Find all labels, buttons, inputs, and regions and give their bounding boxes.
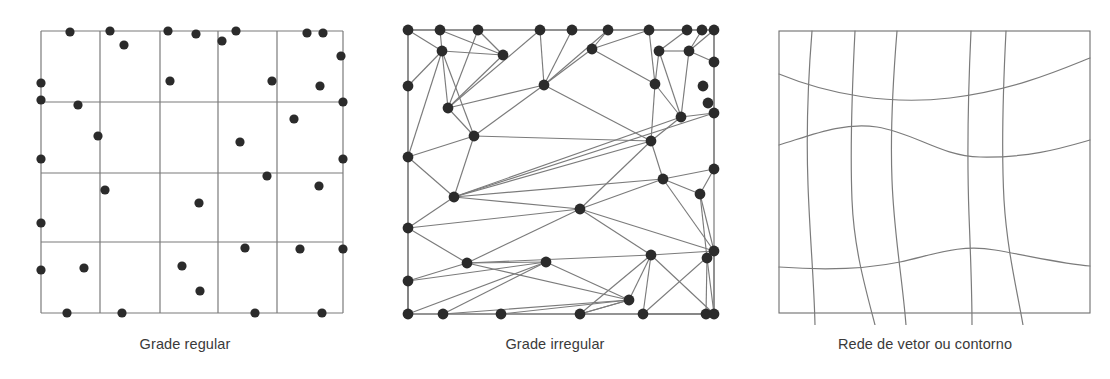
grade-irregular-diagram (370, 0, 740, 325)
grid-point (318, 28, 327, 37)
triangulation-edge (700, 194, 707, 258)
triangulation-edge (659, 51, 681, 117)
grid-point (79, 263, 88, 272)
triangulation-edge (580, 255, 651, 314)
irregular-grid-edges (408, 30, 714, 314)
grid-point (315, 81, 324, 90)
panel-grade-regular: Grade regular (0, 0, 370, 379)
vector-curve-vertical (851, 31, 875, 325)
panel-rede-vetor-contorno: Rede de vetor ou contorno (740, 0, 1110, 379)
triangulation-node (403, 81, 414, 92)
grid-point (105, 26, 114, 35)
grid-point (165, 76, 174, 85)
grid-point (250, 308, 259, 317)
triangulation-edge (408, 136, 474, 157)
triangulation-node (539, 80, 550, 91)
triangulation-edge (700, 194, 714, 251)
triangulation-node (646, 136, 657, 147)
triangulation-node (438, 309, 449, 320)
vector-curve-horizontal (779, 58, 1090, 100)
triangulation-node (709, 164, 720, 175)
triangulation-edge (544, 49, 592, 85)
triangulation-node (703, 98, 714, 109)
triangulation-node (403, 223, 414, 234)
caption-rede-vetor-contorno: Rede de vetor ou contorno (740, 336, 1110, 352)
triangulation-edge (408, 51, 442, 157)
triangulation-edge (448, 55, 503, 108)
triangulation-node (587, 44, 598, 55)
triangulation-edge (448, 108, 474, 136)
triangulation-edge (540, 30, 544, 85)
triangulation-edge (443, 300, 629, 314)
grade-regular-diagram (0, 0, 370, 325)
caption-grade-irregular: Grade irregular (370, 336, 740, 352)
grid-point (338, 154, 347, 163)
triangulation-node (709, 108, 720, 119)
grid-point (302, 28, 311, 37)
grid-point (191, 29, 200, 38)
grid-point (338, 97, 347, 106)
triangulation-node (473, 25, 484, 36)
triangulation-node (709, 57, 720, 68)
figure-root: Grade regular Grade irregular Rede de ve… (0, 0, 1110, 379)
grid-point (235, 137, 244, 146)
grid-point (336, 51, 345, 60)
triangulation-node (575, 204, 586, 215)
grid-point (36, 218, 45, 227)
triangulation-edge (651, 255, 714, 314)
triangulation-node (695, 189, 706, 200)
grid-point (195, 286, 204, 295)
triangulation-node (646, 250, 657, 261)
grid-point (314, 181, 323, 190)
triangulation-node (698, 81, 709, 92)
caption-grade-regular: Grade regular (0, 336, 370, 352)
grid-point (36, 265, 45, 274)
grid-point (177, 261, 186, 270)
triangulation-node (469, 131, 480, 142)
triangulation-edge (681, 51, 689, 117)
triangulation-node (702, 253, 713, 264)
grid-point (267, 76, 276, 85)
regular-grid-points (36, 26, 347, 317)
grid-point (100, 185, 109, 194)
triangulation-edge (474, 85, 544, 136)
triangulation-edge (651, 141, 663, 179)
triangulation-edge (467, 263, 629, 300)
triangulation-node (462, 258, 473, 269)
triangulation-node (575, 309, 586, 320)
grid-point (231, 26, 240, 35)
triangulation-node (654, 46, 665, 57)
triangulation-node (624, 295, 635, 306)
vector-network-border (779, 31, 1090, 313)
vector-network-box (779, 31, 1090, 313)
triangulation-node (403, 152, 414, 163)
triangulation-edge (544, 85, 651, 141)
triangulation-edge (448, 30, 478, 108)
triangulation-node (658, 174, 669, 185)
grid-point (36, 78, 45, 87)
triangulation-edge (408, 157, 454, 197)
triangulation-edge (501, 300, 629, 314)
triangulation-edge (454, 136, 474, 197)
triangulation-edge (408, 209, 580, 228)
triangulation-node (403, 309, 414, 320)
grid-point (119, 40, 128, 49)
triangulation-node (498, 50, 509, 61)
triangulation-node (650, 79, 661, 90)
triangulation-edge (663, 169, 714, 179)
triangulation-node (701, 309, 712, 320)
triangulation-node (676, 112, 687, 123)
triangulation-edge (544, 30, 608, 85)
vector-curve-horizontal (779, 248, 1090, 269)
grid-point (295, 244, 304, 253)
panel-grade-irregular: Grade irregular (370, 0, 740, 379)
vector-curve-vertical (968, 31, 972, 325)
triangulation-node (435, 25, 446, 36)
vector-curve-horizontal (779, 126, 1090, 157)
triangulation-edge (408, 262, 546, 314)
triangulation-node (403, 276, 414, 287)
triangulation-node (496, 309, 507, 320)
triangulation-node (449, 192, 460, 203)
grid-point (289, 114, 298, 123)
grid-point (62, 308, 71, 317)
